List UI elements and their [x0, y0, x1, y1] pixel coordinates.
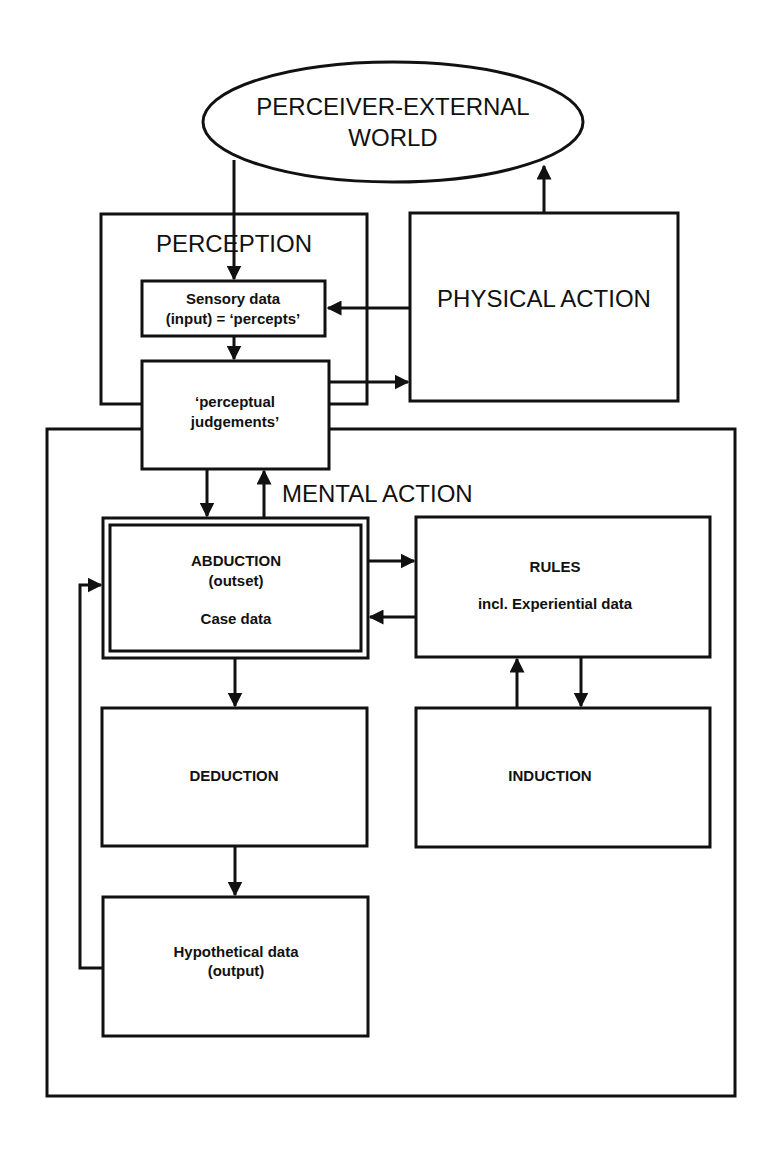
world-ellipse — [203, 62, 583, 182]
hypothetical-label-line1: Hypothetical data — [173, 943, 299, 960]
world-label-line2: WORLD — [348, 124, 437, 151]
induction-node: INDUCTION — [416, 708, 710, 847]
physical-action-node: PHYSICAL ACTION — [410, 213, 678, 401]
rules-label-line2: incl. Experiential data — [478, 595, 633, 612]
abduction-label-line1: ABDUCTION — [191, 552, 281, 569]
rules-box — [416, 517, 710, 657]
rules-node: RULES incl. Experiential data — [416, 517, 710, 657]
sensory-label-line2: (input) = ‘percepts’ — [166, 310, 301, 327]
abduction-node: ABDUCTION (outset) Case data — [103, 518, 368, 658]
deduction-node: DEDUCTION — [102, 708, 367, 846]
judgements-label-line1: ‘perceptual — [195, 393, 275, 410]
diagram-canvas: PERCEPTION PERCEIVER-EXTERNAL WORLD PHYS… — [0, 0, 774, 1153]
hypothetical-label-line2: (output) — [208, 962, 265, 979]
physical-action-label: PHYSICAL ACTION — [437, 285, 651, 312]
deduction-label: DEDUCTION — [189, 767, 278, 784]
judgements-label-line2: judgements’ — [190, 413, 279, 430]
abduction-label-line3: Case data — [201, 610, 273, 627]
judgements-node: ‘perceptual judgements’ — [142, 361, 329, 469]
world-label-line1: PERCEIVER-EXTERNAL — [256, 93, 529, 120]
induction-label: INDUCTION — [508, 767, 591, 784]
rules-label-line1: RULES — [530, 558, 581, 575]
sensory-node: Sensory data (input) = ‘percepts’ — [142, 281, 325, 336]
sensory-label-line1: Sensory data — [186, 290, 281, 307]
mental-action-label: MENTAL ACTION — [282, 480, 473, 507]
abduction-label-line2: (outset) — [209, 572, 264, 589]
world-node: PERCEIVER-EXTERNAL WORLD — [203, 62, 583, 182]
hypothetical-node: Hypothetical data (output) — [103, 897, 368, 1036]
